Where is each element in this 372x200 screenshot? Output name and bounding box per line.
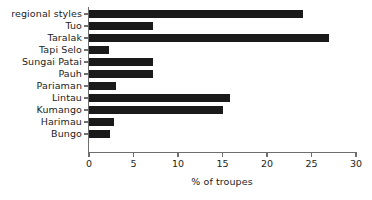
bar-row — [89, 32, 356, 44]
plot-area — [89, 8, 356, 152]
y-axis-tick-bungo: Bungo — [0, 128, 85, 140]
y-axis-tick-pariaman: Pariaman — [0, 80, 85, 92]
x-axis-tick-mark — [266, 153, 267, 157]
y-axis-tick-tapi-selo: Tapi Selo — [0, 44, 85, 56]
bar-row — [89, 8, 356, 20]
y-axis-category-labels: regional styles Tuo Taralak Tapi Selo Su… — [0, 8, 85, 152]
y-axis-line — [88, 7, 89, 153]
y-axis-tick-label: Lintau — [52, 93, 82, 103]
bar-bungo — [89, 130, 110, 138]
bar-harimau — [89, 118, 114, 126]
bar-row — [89, 56, 356, 68]
y-axis-tick-label: Pauh — [58, 69, 82, 79]
y-axis-tick-mark — [84, 85, 89, 86]
x-axis-tick-mark — [88, 153, 89, 157]
y-axis-tick-mark — [84, 73, 89, 74]
bar-pauh — [89, 70, 153, 78]
y-axis-tick-mark — [84, 49, 89, 50]
x-axis-tick-mark — [177, 153, 178, 157]
y-axis-tick-label: Sungai Patai — [22, 57, 82, 67]
y-axis-tick-mark — [84, 109, 89, 110]
y-axis-tick-sungai-patai: Sungai Patai — [0, 56, 85, 68]
bar-chart: regional styles Tuo Taralak Tapi Selo Su… — [0, 0, 372, 200]
bar-sungai-patai — [89, 58, 153, 66]
x-axis-tick-label: 10 — [172, 158, 184, 169]
bar-row — [89, 128, 356, 140]
bar-tapi-selo — [89, 46, 109, 54]
bar-row — [89, 68, 356, 80]
bar-row — [89, 80, 356, 92]
x-axis-tick-label: 15 — [216, 158, 228, 169]
y-axis-tick-taralak: Taralak — [0, 32, 85, 44]
x-axis-tick-mark — [222, 153, 223, 157]
y-axis-tick-mark — [84, 37, 89, 38]
y-axis-tick-pauh: Pauh — [0, 68, 85, 80]
y-axis-tick-lintau: Lintau — [0, 92, 85, 104]
x-axis-title-text: % of troupes — [191, 176, 253, 187]
y-axis-tick-label: Pariaman — [37, 81, 82, 91]
x-axis-title: % of troupes — [0, 176, 372, 187]
y-axis-tick-regional-styles: regional styles — [0, 8, 85, 20]
y-axis-tick-label: Taralak — [48, 33, 82, 43]
y-axis-tick-mark — [84, 61, 89, 62]
bar-kumango — [89, 106, 223, 114]
y-axis-tick-harimau: Harimau — [0, 116, 85, 128]
bar-pariaman — [89, 82, 116, 90]
y-axis-tick-label: Bungo — [51, 129, 82, 139]
bar-row — [89, 44, 356, 56]
y-axis-tick-label: regional styles — [11, 9, 82, 19]
y-axis-tick-mark — [84, 121, 89, 122]
y-axis-tick-mark — [84, 97, 89, 98]
bar-regional-styles — [89, 10, 303, 18]
bar-lintau — [89, 94, 230, 102]
x-axis-tick-mark — [311, 153, 312, 157]
x-axis-tick-mark — [133, 153, 134, 157]
y-axis-tick-mark — [84, 13, 89, 14]
bar-row — [89, 92, 356, 104]
x-axis-tick-label: 30 — [350, 158, 362, 169]
x-axis-tick-mark — [355, 153, 356, 157]
x-axis-tick-label: 5 — [130, 158, 136, 169]
y-axis-tick-mark — [84, 25, 89, 26]
bar-row — [89, 116, 356, 128]
y-axis-tick-label: Tapi Selo — [39, 45, 82, 55]
x-axis-tick-label: 0 — [86, 158, 92, 169]
y-axis-tick-label: Kumango — [37, 105, 82, 115]
x-axis-tick-label: 25 — [305, 158, 317, 169]
y-axis-tick-tuo: Tuo — [0, 20, 85, 32]
bar-taralak — [89, 34, 329, 42]
bar-tuo — [89, 22, 153, 30]
y-axis-tick-kumango: Kumango — [0, 104, 85, 116]
bar-row — [89, 104, 356, 116]
y-axis-tick-label: Harimau — [41, 117, 82, 127]
bar-row — [89, 20, 356, 32]
y-axis-tick-label: Tuo — [66, 21, 83, 31]
x-axis-tick-label: 20 — [261, 158, 273, 169]
y-axis-tick-mark — [84, 133, 89, 134]
